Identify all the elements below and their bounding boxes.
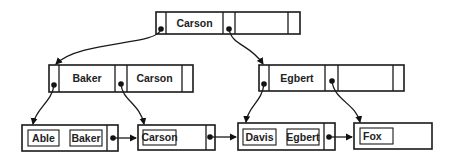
- root-key-0: Carson: [176, 17, 212, 29]
- leaf-3-key-0: Davis: [245, 131, 273, 143]
- leaf-4-key-0: Fox: [363, 130, 382, 142]
- leaf-node-1: Able Baker: [22, 125, 118, 151]
- leaf-1-key-0: Able: [32, 132, 55, 144]
- leaf-node-4: Fox: [354, 123, 432, 149]
- leaf-node-2: Carson: [138, 125, 215, 150]
- internal-right-key-0: Egbert: [280, 72, 314, 84]
- leaf-1-key-1: Baker: [71, 132, 100, 144]
- internal-left-key-0: Baker: [72, 72, 101, 84]
- leaf-2-key-0: Carson: [141, 131, 177, 143]
- internal-left-key-1: Carson: [136, 72, 172, 84]
- edge-root-to-left: [56, 29, 161, 64]
- internal-node-right: Egbert: [259, 65, 404, 91]
- leaf-node-3: Davis Egbert: [238, 123, 335, 150]
- root-node: Carson: [156, 12, 300, 34]
- b-tree-diagram: Carson Baker Carson Egbert Able Baker: [0, 0, 455, 159]
- leaf-3-key-1: Egbert: [286, 131, 320, 143]
